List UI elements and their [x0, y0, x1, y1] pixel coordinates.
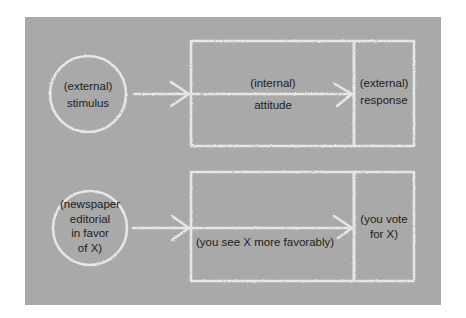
response-label-line: (you vote — [354, 212, 414, 227]
stimulus-label-1: (external) stimulus — [50, 79, 126, 111]
attitude-label-bottom-1: attitude — [223, 98, 323, 113]
stimulus-label-line: (external) — [50, 79, 126, 94]
stimulus-label-line: editorial — [52, 212, 128, 227]
response-label-1: (external) response — [354, 76, 414, 108]
response-label-line: for X) — [354, 227, 414, 242]
attitude-label-2: (you see X more favorably) — [196, 235, 346, 250]
stimulus-label-line: in favor — [52, 226, 128, 241]
chalk-diagram-lines — [0, 0, 466, 318]
response-label-2: (you vote for X) — [354, 212, 414, 242]
response-label-line: response — [354, 93, 414, 108]
stimulus-label-line: (newspaper — [52, 197, 128, 212]
arrow-icon-stimulus-to-attitude-1 — [134, 82, 189, 106]
stimulus-label-line: of X) — [52, 241, 128, 256]
attitude-box-2 — [191, 172, 354, 281]
stimulus-label-line: stimulus — [50, 96, 126, 111]
stimulus-label-2: (newspaper editorial in favor of X) — [52, 197, 128, 255]
response-label-line: (external) — [354, 76, 414, 91]
attitude-label-top-1: (internal) — [223, 76, 323, 91]
arrow-icon-stimulus-to-attitude-2 — [133, 216, 189, 240]
